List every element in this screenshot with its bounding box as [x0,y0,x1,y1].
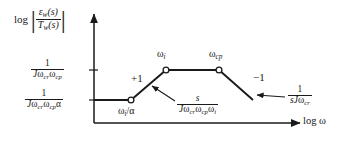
breakpoint-marker-wcp [216,67,222,73]
alpha-symbol: α [56,99,61,109]
x-axis-title: log ω [303,116,326,127]
y-tick-label-upper: 1 Jωcrωcp [31,59,64,80]
y-tick-label-upper-denominator: Jωcrωcp [31,69,64,81]
omega-sub-cp: cp [55,72,61,79]
figure-canvas: log | εw(s) Tw(s) | 1 Jωcrωcp 1 Jωcrωcpα… [0,0,340,147]
omega-subscript-cp: cp [216,53,223,61]
breakpoint-label-wi: ωi [157,49,166,61]
omega-symbol: ω [209,48,216,59]
y-axis-title: log | εw(s) Tw(s) | [14,7,66,32]
annotation-right-denominator: sJωcr [288,95,312,107]
leader-line-right-annotation [257,95,285,97]
y-tick-label-lower-numerator: 1 [25,89,63,99]
y-tick-label-lower: 1 Jωcrωcpα [25,89,63,110]
omega-sub-i: i [214,107,216,114]
slope-label-minus-one: −1 [253,72,265,83]
x-tick-label-wi-over-alpha: ωi/α [118,106,135,118]
annotation-mid-segment: s Jωcrωcpωi [177,94,218,115]
y-axis-title-log: log [14,13,28,25]
magnitude-asymptote-curve [94,70,253,100]
y-tick-label-lower-denominator: Jωcrωcpα [25,99,63,111]
y-axis-title-fraction: εw(s) Tw(s) [36,7,61,32]
epsilon-argument: (s) [47,6,58,17]
y-axis-title-denominator: Tw(s) [36,19,61,32]
y-tick-label-upper-numerator: 1 [31,59,64,69]
y-axis-title-numerator: εw(s) [36,7,61,19]
omega-symbol: ω [118,105,125,116]
omega-subscript-i: i [164,53,166,61]
breakpoint-marker-wi-over-alpha [128,97,134,103]
annotation-mid-denominator: Jωcrωcpωi [177,104,218,116]
omega-symbol: ω [157,48,164,59]
annotation-mid-numerator: s [177,94,218,104]
abs-bar-right: | [61,10,66,30]
omega-sub-cr: cr [304,98,310,105]
slope-label-plus-one: +1 [131,73,143,84]
slash-alpha: /α [127,105,135,116]
breakpoint-label-wcp: ωcp [209,49,222,61]
t-argument: (s) [48,19,59,30]
leader-line-mid-annotation [152,86,175,101]
annotation-right-segment: 1 sJωcr [288,85,312,106]
annotation-right-numerator: 1 [288,85,312,95]
breakpoint-marker-wi [163,67,169,73]
